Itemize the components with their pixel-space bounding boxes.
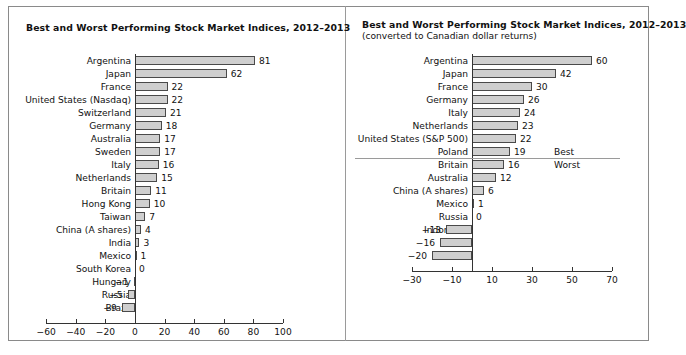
bar — [472, 134, 516, 143]
bar-row: Japan42 — [346, 68, 648, 81]
bar-value-label: 42 — [560, 68, 572, 81]
bar-row: Argentina60 — [346, 55, 648, 68]
bar-value-label: 7 — [149, 211, 155, 224]
x-axis-tick-label: 100 — [263, 327, 303, 338]
bar-value-label: −16 — [402, 237, 435, 250]
bar-value-label: 11 — [155, 185, 167, 198]
bar-row: Germany26 — [346, 94, 648, 107]
bar-row: Japan62 — [9, 68, 345, 81]
category-label: Australia — [346, 172, 468, 185]
x-axis-tick — [572, 267, 573, 271]
bar — [135, 134, 160, 143]
bar — [472, 69, 556, 78]
bar-row: Brazil−9 — [9, 302, 345, 315]
category-label: Italy — [9, 159, 131, 172]
category-label: Netherlands — [9, 172, 131, 185]
category-label: Japan — [346, 68, 468, 81]
category-label: Sweden — [9, 146, 131, 159]
bar-value-label: 16 — [508, 159, 520, 172]
category-label: China (A shares) — [346, 185, 468, 198]
bar — [135, 160, 159, 169]
right-chart-panel: Best and Worst Performing Stock Market I… — [346, 6, 648, 341]
category-label: Mexico — [9, 250, 131, 263]
x-axis-tick — [224, 319, 225, 323]
bar-row: France22 — [9, 81, 345, 94]
bar — [135, 186, 151, 195]
bar-value-label: 16 — [163, 159, 175, 172]
bar — [472, 95, 524, 104]
worst-annotation-label: Worst — [554, 159, 580, 171]
bar-row: Britain16 — [346, 159, 648, 172]
category-label: Hong Kong — [9, 198, 131, 211]
x-axis-line — [412, 271, 612, 272]
category-label: Netherlands — [346, 120, 468, 133]
x-axis-tick — [135, 319, 136, 323]
x-axis-tick — [412, 267, 413, 271]
bar-row: United States (S&P 500)22 — [346, 133, 648, 146]
category-label: Switzerland — [9, 107, 131, 120]
zero-axis-line — [472, 54, 473, 271]
bar-value-label: 60 — [596, 55, 608, 68]
bar — [135, 95, 168, 104]
bar — [432, 251, 472, 260]
category-label: France — [9, 81, 131, 94]
bar-value-label: −1 — [96, 276, 129, 289]
bar-row: India3 — [9, 237, 345, 250]
best-worst-divider — [355, 158, 620, 159]
best-annotation-label: Best — [554, 146, 574, 158]
bar-value-label: 17 — [164, 146, 176, 159]
bar-row: Australia12 — [346, 172, 648, 185]
bar — [135, 147, 160, 156]
x-axis-tick — [76, 319, 77, 323]
bar-value-label: 22 — [172, 81, 184, 94]
category-label: France — [346, 81, 468, 94]
x-axis-tick-label: 70 — [592, 275, 632, 286]
bar-value-label: 26 — [528, 94, 540, 107]
bar — [446, 225, 472, 234]
bar-value-label: 12 — [500, 172, 512, 185]
bar — [472, 82, 532, 91]
bar — [135, 121, 162, 130]
bar — [472, 121, 518, 130]
x-axis-tick — [492, 267, 493, 271]
bar-row: Argentina81 — [9, 55, 345, 68]
x-axis-tick — [194, 319, 195, 323]
bar-value-label: 10 — [154, 198, 166, 211]
bar-row: Italy16 — [9, 159, 345, 172]
category-label: Italy — [346, 107, 468, 120]
bar — [128, 290, 135, 299]
category-label: China (A shares) — [9, 224, 131, 237]
bar-row: Brazil−16 — [346, 237, 648, 250]
bar — [135, 69, 227, 78]
x-axis-tick — [532, 267, 533, 271]
x-axis-tick-label: 30 — [512, 275, 552, 286]
category-label: Japan — [9, 68, 131, 81]
right-chart-plot-area: Argentina60Japan42France30Germany26Italy… — [346, 6, 648, 341]
category-label: United States (S&P 500) — [346, 133, 468, 146]
category-label: Britain — [9, 185, 131, 198]
zero-axis-line — [135, 54, 136, 323]
bar-row: Russia0 — [346, 211, 648, 224]
bar-value-label: 0 — [476, 211, 482, 224]
bar-value-label: −20 — [394, 250, 427, 263]
x-axis-tick-label: 50 — [552, 275, 592, 286]
category-label: South Korea — [9, 263, 131, 276]
category-label: Australia — [9, 133, 131, 146]
bar-value-label: 81 — [259, 55, 271, 68]
bar-row: Netherlands23 — [346, 120, 648, 133]
frame-border-right — [648, 6, 649, 341]
bar — [135, 108, 166, 117]
bar-row: Britain11 — [9, 185, 345, 198]
bar-row: Mexico1 — [346, 198, 648, 211]
bar-value-label: −5 — [90, 289, 123, 302]
bar-value-label: −13 — [408, 224, 441, 237]
bar — [135, 173, 157, 182]
x-axis-tick-label: 10 — [472, 275, 512, 286]
x-axis-tick-label: −10 — [432, 275, 472, 286]
category-label: Britain — [346, 159, 468, 172]
bar-row: France30 — [346, 81, 648, 94]
bar — [472, 160, 504, 169]
bar — [472, 173, 496, 182]
bar — [472, 56, 592, 65]
